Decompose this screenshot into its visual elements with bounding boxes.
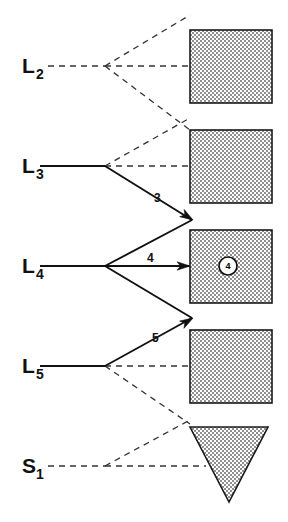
node-label-l5-base: L (22, 354, 35, 377)
arrowhead-5 (180, 314, 195, 328)
dashed-edges-group (48, 15, 206, 466)
edge-L4-down-to-square3 (105, 266, 192, 318)
node-label-l2-base: L (22, 54, 35, 77)
node-label-l2-subscript: 2 (36, 66, 44, 82)
node-label-l5-subscript: 5 (36, 366, 44, 382)
edge-label-3: 3 (154, 191, 161, 205)
edge-L2-down (105, 66, 190, 130)
markers-group: 4 (219, 257, 237, 275)
node-labels-group: L2L3L4L5S1 (22, 54, 44, 482)
edge-S1-up (105, 420, 190, 466)
square-1 (190, 30, 272, 103)
node-label-l3-base: L (22, 154, 35, 177)
node-label-l2: L2 (22, 54, 44, 82)
node-label-l3: L3 (22, 154, 44, 182)
square-4 (190, 330, 272, 403)
node-label-s1-base: S (22, 454, 36, 477)
edge-L2-up (105, 15, 190, 66)
diagram-canvas: 4 L2L3L4L5S1 345 (0, 0, 288, 522)
square-2 (190, 130, 272, 203)
triangle-1 (190, 427, 268, 502)
solid-edges-group (40, 166, 192, 366)
edge-L3-to-square3 (105, 166, 192, 220)
node-label-l3-subscript: 3 (36, 166, 44, 182)
edge-L5-to-square3 (105, 318, 192, 366)
node-label-l4-base: L (22, 254, 35, 277)
edge-label-5: 5 (152, 331, 159, 345)
level-transition-diagram: 4 L2L3L4L5S1 345 (0, 0, 288, 522)
edge-labels-group: 345 (147, 191, 161, 345)
node-label-s1-subscript: 1 (36, 466, 44, 482)
circled-4-text: 4 (225, 261, 230, 271)
node-label-s1: S1 (22, 454, 44, 482)
circled-4: 4 (219, 257, 237, 275)
edge-L3-up (105, 118, 190, 166)
node-label-l5: L5 (22, 354, 44, 382)
edge-L5-down (105, 366, 190, 424)
node-label-l4: L4 (22, 254, 44, 282)
edge-label-4: 4 (147, 251, 154, 265)
node-label-l4-subscript: 4 (36, 266, 44, 282)
